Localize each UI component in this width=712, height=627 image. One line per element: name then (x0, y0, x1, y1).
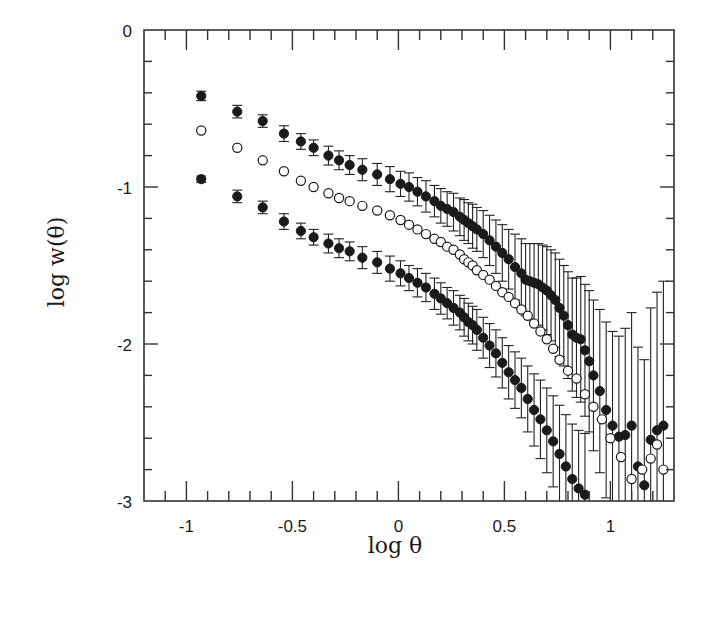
open-data-point (572, 374, 581, 383)
filled-data-point (498, 358, 507, 367)
open-data-point (652, 440, 661, 449)
filled-data-point (413, 278, 422, 287)
filled-data-point (536, 415, 545, 424)
filled-data-point (523, 394, 532, 403)
correlation-function-chart: -1-0.500.51 0-1-2-3 log θ log w(θ) (0, 0, 712, 627)
open-data-point (542, 335, 551, 344)
filled-data-point (233, 192, 242, 201)
filled-data-point (334, 156, 343, 165)
filled-data-point (559, 311, 568, 320)
open-data-point (597, 415, 606, 424)
open-data-point (324, 189, 333, 198)
filled-data-point (413, 187, 422, 196)
filled-data-point (640, 481, 649, 490)
open-data-point (404, 220, 413, 229)
open-data-point (536, 327, 545, 336)
filled-data-point (324, 239, 333, 248)
x-tick-label: 0.5 (493, 517, 517, 536)
filled-data-point (563, 321, 572, 330)
open-data-point (358, 201, 367, 210)
filled-data-point (345, 247, 354, 256)
filled-data-point (491, 349, 500, 358)
open-data-point (529, 319, 538, 328)
filled-data-point (568, 474, 577, 483)
x-tick-label: -1 (179, 517, 194, 536)
filled-data-point (580, 490, 589, 499)
filled-data-point (589, 371, 598, 380)
filled-data-point (358, 165, 367, 174)
filled-data-point (421, 192, 430, 201)
filled-data-point (334, 244, 343, 253)
filled-data-point (472, 325, 481, 334)
open-data-point (580, 390, 589, 399)
filled-data-point (197, 175, 206, 184)
filled-data-point (324, 151, 333, 160)
filled-data-point (529, 405, 538, 414)
open-data-point (523, 311, 532, 320)
filled-data-point (485, 341, 494, 350)
y-tick-label: -3 (117, 493, 132, 512)
open-data-point (421, 230, 430, 239)
open-data-point (396, 215, 405, 224)
open-data-point (638, 465, 647, 474)
filled-data-point (504, 368, 513, 377)
filled-data-point (627, 421, 636, 430)
open-data-point (373, 206, 382, 215)
filled-data-point (608, 421, 617, 430)
filled-data-point (258, 116, 267, 125)
open-data-point (296, 176, 305, 185)
open-data-point (197, 126, 206, 135)
y-tick-label: -1 (117, 179, 132, 198)
filled-data-point (396, 269, 405, 278)
filled-data-point (385, 264, 394, 273)
filled-data-point (621, 430, 630, 439)
open-data-point (334, 193, 343, 202)
filled-data-point (279, 129, 288, 138)
filled-data-point (576, 335, 585, 344)
open-data-point (413, 225, 422, 234)
filled-data-point (358, 253, 367, 262)
filled-data-point (345, 160, 354, 169)
filled-data-point (595, 387, 604, 396)
filled-data-point (279, 217, 288, 226)
x-axis-title: log θ (368, 533, 423, 558)
open-data-point (233, 143, 242, 152)
filled-data-point (404, 273, 413, 282)
filled-data-point (296, 137, 305, 146)
filled-data-point (373, 170, 382, 179)
y-tick-label: -2 (117, 336, 132, 355)
filled-data-point (555, 449, 564, 458)
filled-data-point (296, 226, 305, 235)
open-data-point (258, 156, 267, 165)
open-data-point (627, 474, 636, 483)
open-data-point (589, 402, 598, 411)
filled-data-point (585, 357, 594, 366)
filled-data-point (561, 462, 570, 471)
open-data-point (646, 454, 655, 463)
open-data-point (555, 355, 564, 364)
filled-data-point (479, 333, 488, 342)
filled-data-point (373, 258, 382, 267)
y-tick-label: 0 (123, 22, 132, 41)
open-data-point (616, 452, 625, 461)
data-points (197, 91, 668, 499)
filled-data-point (197, 91, 206, 100)
open-data-point (345, 197, 354, 206)
y-tick-labels: 0-1-2-3 (117, 22, 132, 512)
filled-data-point (549, 437, 558, 446)
x-tick-label: -0.5 (278, 517, 307, 536)
open-data-point (606, 434, 615, 443)
filled-data-point (233, 107, 242, 116)
open-data-point (385, 211, 394, 220)
filled-data-point (602, 405, 611, 414)
x-tick-label: 1 (606, 517, 615, 536)
filled-data-point (510, 376, 519, 385)
filled-data-point (580, 346, 589, 355)
filled-data-point (309, 143, 318, 152)
open-data-point (549, 344, 558, 353)
filled-data-point (404, 182, 413, 191)
open-data-point (279, 167, 288, 176)
filled-data-point (421, 283, 430, 292)
filled-data-point (258, 203, 267, 212)
open-data-point (309, 182, 318, 191)
